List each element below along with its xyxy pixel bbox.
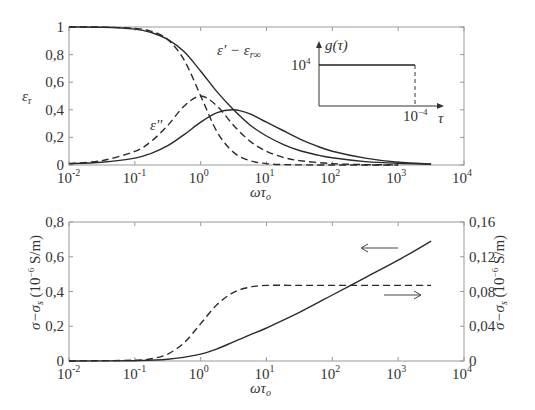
top-x-tick-label: 104 — [452, 167, 472, 186]
bottom-left-y-tick-label: 0,6 — [45, 249, 64, 265]
bottom-x-tick-label: 100 — [189, 363, 209, 382]
eps-double-prime-annotation: ε'' — [150, 117, 163, 133]
top-y-tick-label: 0 — [57, 157, 65, 173]
top-y-tick-label: 0,8 — [45, 47, 64, 63]
eps-prime-annotation: ε' − εr∞ — [217, 42, 261, 60]
top-series-2 — [69, 27, 431, 164]
bottom-right-y-tick-label: 0 — [469, 353, 477, 369]
top-y-tick-label: 0,6 — [45, 74, 64, 90]
bottom-x-tick-label: 10-1 — [123, 363, 146, 382]
top-x-axis-label: ωτo — [250, 184, 271, 202]
bottom-series-1 — [69, 285, 431, 361]
bottom-plot-frame — [69, 222, 464, 361]
inset-y-arrow-icon — [316, 41, 322, 48]
top-plot: 10-210-1100101102103104 00,20,40,60,81 ε… — [22, 19, 472, 202]
bottom-left-y-axis-label: σ−σs (10−6 S/m) — [26, 235, 45, 330]
top-y-tick-label: 0,4 — [45, 102, 64, 118]
top-y-tick-label: 1 — [57, 19, 65, 35]
top-x-tick-label: 102 — [320, 167, 340, 186]
top-plot-frame — [69, 27, 464, 165]
top-series-3 — [69, 110, 431, 164]
inset-y-tick: 104 — [291, 56, 311, 73]
right-axis-arrow — [384, 291, 421, 299]
inset-x-label: τ — [438, 110, 444, 126]
bottom-x-tick-label: 102 — [320, 363, 340, 382]
inset-distribution: g(τ) 104 10−4 τ — [291, 37, 444, 126]
bottom-plot: 10-210-1100101102103104 00,20,40,60,8 00… — [26, 214, 509, 398]
top-x-tick-label: 103 — [386, 167, 406, 186]
inset-x-tick: 10−4 — [403, 107, 428, 124]
bottom-right-y-tick-label: 0,16 — [469, 214, 496, 230]
bottom-left-y-tick-label: 0,4 — [45, 284, 64, 300]
inset-y-label: g(τ) — [325, 37, 348, 54]
top-x-tick-label: 100 — [189, 167, 209, 186]
left-axis-arrow — [361, 244, 398, 252]
bottom-x-tick-label: 103 — [386, 363, 406, 382]
inset-x-arrow-icon — [437, 103, 444, 109]
top-x-tick-label: 10-1 — [123, 167, 146, 186]
bottom-left-y-tick-label: 0 — [57, 353, 65, 369]
bottom-x-axis-label: ωτo — [250, 380, 271, 398]
bottom-left-y-tick-label: 0,8 — [45, 214, 64, 230]
bottom-series-0 — [69, 241, 431, 361]
bottom-right-y-axis-label: σ−σs (10−6 S/m) — [490, 235, 509, 330]
top-y-tick-label: 0,2 — [45, 129, 64, 145]
figure: 10-210-1100101102103104 00,20,40,60,81 ε… — [0, 0, 535, 410]
top-y-axis-label: εr — [22, 88, 32, 106]
bottom-left-y-tick-label: 0,2 — [45, 318, 64, 334]
